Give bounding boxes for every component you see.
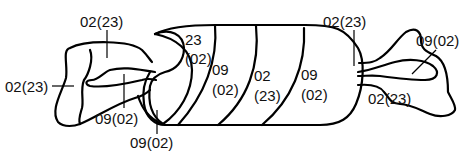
label-left-bottom: 09(02) <box>130 134 173 151</box>
candy-diagram: 02(23) 02(23) 09(02) 09(02) 23 (02) 09 (… <box>0 0 465 162</box>
band-2-line2: (02) <box>212 81 239 98</box>
label-right-bottom: 02(23) <box>368 90 411 107</box>
right-end-labels: 02(23) 09(02) 02(23) <box>323 13 459 107</box>
leader-right-side <box>412 50 436 74</box>
band-4-line1: 09 <box>301 66 318 83</box>
label-left-top: 02(23) <box>80 13 123 30</box>
label-left-side: 02(23) <box>5 78 48 95</box>
band-1-line1: 23 <box>185 31 202 48</box>
label-right-top: 02(23) <box>323 13 366 30</box>
diagram-canvas: 02(23) 02(23) 09(02) 09(02) 23 (02) 09 (… <box>0 0 465 162</box>
band-3-line1: 02 <box>254 67 271 84</box>
left-end-inner-fold <box>79 50 91 124</box>
label-right-side: 09(02) <box>416 32 459 49</box>
left-end-labels: 02(23) 02(23) 09(02) 09(02) <box>5 13 173 151</box>
band-4-line2: (02) <box>301 86 328 103</box>
band-3-line2: (23) <box>254 87 281 104</box>
label-left-inner: 09(02) <box>95 110 138 127</box>
band-1-line2: (02) <box>185 50 212 67</box>
band-2-line1: 09 <box>212 61 229 78</box>
